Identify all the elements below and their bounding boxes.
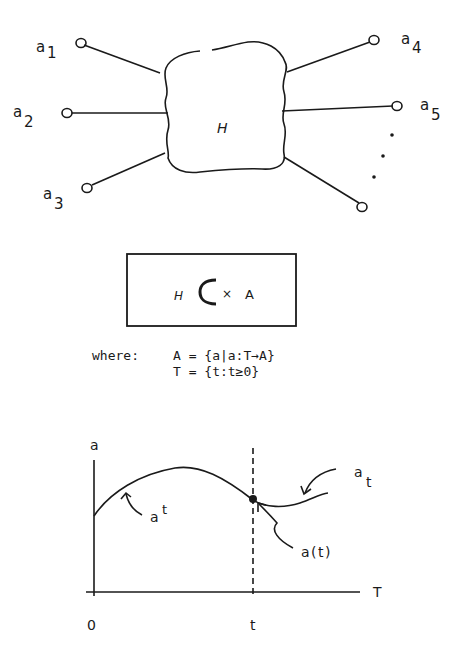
definitions-keyword: where:: [92, 348, 139, 363]
svg-text:a: a: [354, 464, 363, 480]
terminal-label-a5: a 5: [420, 96, 441, 124]
terminal-line-an: [284, 157, 359, 203]
x-tick-t: t: [250, 617, 256, 633]
svg-text:t: t: [162, 502, 167, 517]
time-graph: [86, 448, 360, 596]
system-h-diagram: [62, 36, 402, 212]
svg-text:a: a: [150, 509, 159, 525]
terminal-line-a4: [287, 42, 370, 72]
terminal-node-an: [357, 203, 367, 212]
svg-text:1: 1: [47, 44, 57, 62]
arrow-point-label: [259, 504, 293, 548]
definitions: where: A = {a|a:T→A} T = {t:t≥0}: [92, 348, 275, 379]
svg-text:3: 3: [54, 195, 64, 213]
definition-a: A = {a|a:T→A}: [173, 348, 275, 363]
ellipsis-dots: [372, 133, 394, 179]
svg-text:a: a: [13, 103, 22, 121]
x-axis-label: T: [372, 584, 382, 600]
svg-text:2: 2: [24, 113, 34, 131]
terminal-line-a1: [84, 45, 160, 73]
terminal-node-a1: [76, 39, 86, 48]
relation-right-a: A: [245, 287, 254, 302]
svg-text:a: a: [43, 185, 52, 203]
terminal-node-a5: [392, 102, 402, 111]
svg-text:5: 5: [431, 106, 441, 124]
definition-t: T = {t:t≥0}: [173, 364, 259, 379]
terminal-label-a1: a 1: [36, 38, 57, 62]
terminal-node-a2: [62, 109, 72, 118]
svg-text:t: t: [366, 474, 372, 490]
point-label: a(t): [301, 544, 332, 560]
system-label: H: [217, 120, 228, 136]
terminal-label-a3: a 3: [43, 185, 64, 213]
terminal-label-a4: a 4: [401, 30, 422, 57]
current-state-point: [249, 495, 257, 503]
relation-times: ×: [222, 287, 232, 301]
terminal-line-a3: [92, 153, 165, 185]
system-blob: [165, 42, 287, 173]
arrow-past-label: [126, 494, 142, 515]
terminal-label-a2: a 2: [13, 103, 34, 131]
terminal-node-a3: [82, 184, 92, 193]
y-axis-label: a: [90, 437, 99, 453]
relation-left-h: H: [174, 289, 183, 303]
terminal-node-a4: [369, 36, 379, 45]
svg-text:a: a: [420, 96, 429, 114]
diagram-canvas: H a 1 a 2 a 3 a 4 a 5 H × A where: A = {…: [0, 0, 467, 650]
past-trajectory-curve: [94, 467, 253, 516]
future-trajectory-label: a t: [354, 464, 372, 490]
past-trajectory-label: a t: [150, 502, 167, 525]
x-tick-0: 0: [87, 617, 96, 633]
svg-text:4: 4: [412, 39, 422, 57]
terminal-line-a5: [282, 106, 393, 111]
subset-symbol-icon: [200, 280, 216, 304]
relation-box: H × A: [127, 254, 296, 326]
svg-text:a: a: [36, 38, 45, 56]
svg-text:a: a: [401, 30, 410, 48]
